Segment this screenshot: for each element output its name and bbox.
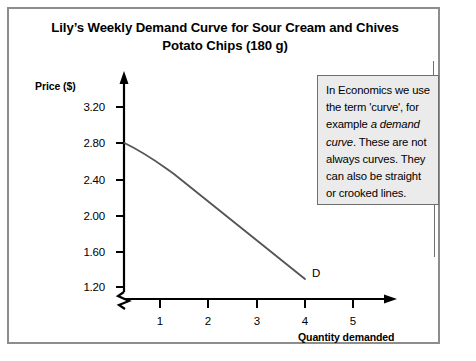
y-axis-arrowhead [120,71,129,84]
y-axis-break-icon [118,292,129,309]
y-tick-label-2-00: 2.00 [59,210,105,222]
demand-curve-line [125,143,306,279]
x-tick-label-3: 3 [247,315,267,327]
x-axis-arrowhead [384,295,397,304]
x-tick-label-5: 5 [343,315,363,327]
callout-tail-bottom [434,205,435,257]
y-tick-label-2-40: 2.40 [59,174,105,186]
x-axis-title: Quantity demanded [298,331,394,343]
x-tick-label-4: 4 [295,315,315,327]
x-tick-label-1: 1 [150,315,170,327]
demand-curve-label: D [312,267,320,279]
callout-note: In Economics we use the term 'curve', fo… [317,75,439,205]
y-tick-label-2-80: 2.80 [59,137,105,149]
x-tick-label-2: 2 [198,315,218,327]
figure-frame: Lily’s Weekly Demand Curve for Sour Crea… [7,7,440,344]
y-tick-label-1-20: 1.20 [59,281,105,293]
y-axis-title: Price ($) [35,80,76,92]
y-tick-label-3-20: 3.20 [59,101,105,113]
callout-tail-top [433,61,434,76]
y-tick-label-1-60: 1.60 [59,246,105,258]
